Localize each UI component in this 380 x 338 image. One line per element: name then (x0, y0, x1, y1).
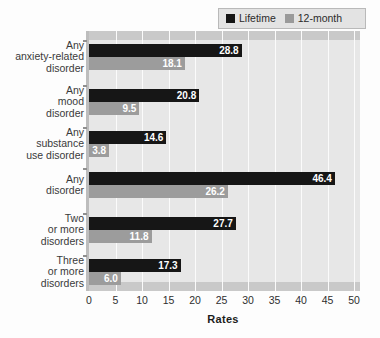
x-tick-label: 15 (157, 294, 181, 306)
x-tick-label: 45 (316, 294, 340, 306)
bar-lifetime: 17.3 (89, 259, 181, 272)
bar-12-month: 9.5 (89, 102, 139, 115)
legend-swatch-square-icon (285, 14, 294, 23)
bar-value-label: 28.8 (219, 46, 238, 56)
x-tick-label: 20 (183, 294, 207, 306)
category-label: Threeor moredisorders (0, 255, 84, 290)
bar-lifetime: 14.6 (89, 131, 166, 144)
bar-lifetime: 28.8 (89, 44, 242, 57)
bar-12-month: 18.1 (89, 57, 185, 70)
bar-value-label: 27.7 (213, 219, 232, 229)
bar-value-label: 6.0 (104, 274, 118, 284)
bar-value-label: 9.5 (122, 104, 136, 114)
bar-12-month: 11.8 (89, 230, 152, 243)
category-label-line: disorders (0, 278, 84, 290)
category-label-line: disorder (0, 63, 84, 75)
x-tick-label: 40 (289, 294, 313, 306)
bar-value-label: 46.4 (312, 174, 331, 184)
x-tick-label: 10 (130, 294, 154, 306)
bar-chart: Lifetime 12-month 28.818.120.89.514.63.8… (0, 0, 380, 338)
category-label: Anysubstanceuse disorder (0, 127, 84, 162)
chart-legend: Lifetime 12-month (218, 8, 366, 29)
bar-value-label: 14.6 (144, 133, 163, 143)
bar-value-label: 17.3 (158, 261, 177, 271)
x-tick-label: 25 (210, 294, 234, 306)
bar-12-month: 3.8 (89, 144, 109, 157)
x-tick-label: 35 (263, 294, 287, 306)
x-tick-label: 5 (104, 294, 128, 306)
legend-swatch-square-icon (226, 14, 235, 23)
category-label: Anydisorder (0, 174, 84, 197)
category-label-line: disorder (0, 185, 84, 197)
bar-value-label: 26.2 (205, 187, 224, 197)
x-tick-label: 30 (236, 294, 260, 306)
category-label-line: disorder (0, 108, 84, 120)
bars-layer: 28.818.120.89.514.63.846.426.227.711.817… (86, 31, 360, 291)
bar-lifetime: 46.4 (89, 172, 335, 185)
legend-entry-lifetime: Lifetime (226, 13, 276, 24)
category-label: Anymooddisorder (0, 85, 84, 120)
bar-value-label: 3.8 (92, 146, 106, 156)
bar-value-label: 20.8 (177, 91, 196, 101)
legend-entry-12-month: 12-month (285, 13, 342, 24)
bar-12-month: 26.2 (89, 185, 228, 198)
bar-12-month: 6.0 (89, 272, 121, 285)
legend-label-12-month: 12-month (298, 13, 342, 24)
category-label-line: disorders (0, 236, 84, 248)
category-label: Anyanxiety-relateddisorder (0, 40, 84, 75)
category-label: Twoor moredisorders (0, 213, 84, 248)
bar-lifetime: 20.8 (89, 89, 199, 102)
category-label-line: use disorder (0, 150, 84, 162)
legend-label-lifetime: Lifetime (239, 13, 276, 24)
x-tick-label: 50 (342, 294, 366, 306)
bar-lifetime: 27.7 (89, 217, 236, 230)
bar-value-label: 11.8 (130, 232, 149, 242)
bar-value-label: 18.1 (162, 59, 181, 69)
x-axis-title: Rates (86, 313, 360, 325)
x-tick-label: 0 (77, 294, 101, 306)
